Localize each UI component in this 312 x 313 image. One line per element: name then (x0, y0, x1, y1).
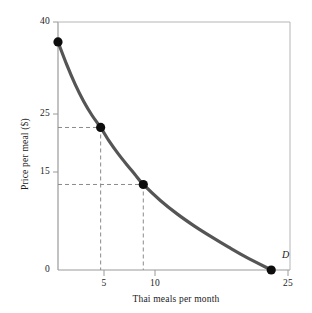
data-point-10-15 (139, 180, 148, 189)
x-axis-label: Thai meals per month (56, 294, 296, 304)
guide-lines (58, 127, 143, 270)
x-tick-label-5: 5 (92, 279, 116, 289)
y-tick-label-40: 40 (24, 17, 50, 27)
x-axis-ticks (104, 270, 288, 276)
data-point-markers (53, 37, 275, 274)
x-tick-label-10: 10 (143, 279, 167, 289)
y-tick-label-0: 0 (24, 265, 50, 275)
y-axis-label: Price per meal ($) (20, 118, 30, 190)
data-point-5-25 (96, 123, 105, 132)
demand-curve-label: D (282, 249, 289, 260)
data-point-25-0 (267, 265, 276, 274)
demand-curve-path (58, 42, 271, 270)
demand-curve-chart: 40 25 15 0 5 10 25 Price per meal ($) Th… (0, 0, 312, 313)
data-point-0-40 (53, 37, 62, 46)
x-tick-label-25: 25 (276, 279, 300, 289)
plot-frame (58, 22, 290, 270)
